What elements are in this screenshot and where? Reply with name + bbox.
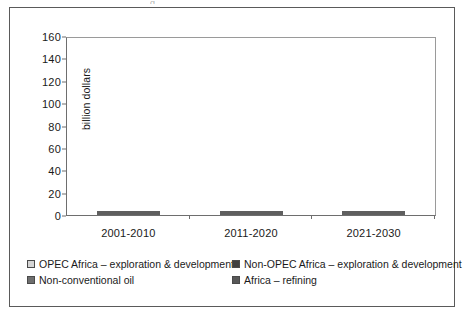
bar-group: 2001-2010 xyxy=(67,38,190,215)
bar-segment[interactable] xyxy=(220,214,283,215)
legend-swatch xyxy=(27,260,35,268)
bar-segment[interactable] xyxy=(97,214,160,215)
y-axis-tick-label: 140 xyxy=(15,53,61,65)
stacked-bar[interactable] xyxy=(220,211,283,215)
y-axis-tick-mark xyxy=(62,37,66,38)
y-axis-tick-mark xyxy=(62,148,66,149)
legend-swatch xyxy=(27,276,35,284)
legend-label: OPEC Africa – exploration & development xyxy=(39,258,234,270)
legend-item[interactable]: Africa – refining xyxy=(232,274,437,286)
stacked-bar[interactable] xyxy=(97,211,160,215)
bar-group: 2021-2030 xyxy=(312,38,435,215)
x-axis-tick-label: 2001-2010 xyxy=(67,227,190,239)
x-axis-tick-mark xyxy=(311,215,312,219)
plot-wrapper: billion dollars 160140120100806040200 20… xyxy=(66,37,436,216)
x-axis-tick-mark xyxy=(434,215,435,219)
x-axis-tick-label: 2011-2020 xyxy=(190,227,313,239)
legend-item[interactable]: Non-OPEC Africa – exploration & developm… xyxy=(232,258,437,270)
legend-label: Non-OPEC Africa – exploration & developm… xyxy=(244,258,462,270)
bar-group: 2011-2020 xyxy=(190,38,313,215)
y-axis-tick-label: 100 xyxy=(15,98,61,110)
bar-segment[interactable] xyxy=(342,214,405,215)
y-axis-tick-mark xyxy=(62,171,66,172)
clipped-title-remnant: g xyxy=(150,0,155,4)
legend-label: Non-conventional oil xyxy=(39,274,134,286)
y-axis-tick-label: 60 xyxy=(15,143,61,155)
x-axis-tick-label: 2021-2030 xyxy=(312,227,435,239)
legend-label: Africa – refining xyxy=(244,274,317,286)
y-axis-tick-label: 120 xyxy=(15,76,61,88)
y-axis-tick-mark xyxy=(62,104,66,105)
y-axis-tick-mark xyxy=(62,216,66,217)
chart-legend: OPEC Africa – exploration & developmentN… xyxy=(27,256,437,288)
legend-swatch xyxy=(232,276,240,284)
legend-item[interactable]: Non-conventional oil xyxy=(27,274,232,286)
y-axis-tick-label: 0 xyxy=(15,210,61,222)
y-axis-tick-mark xyxy=(62,126,66,127)
x-axis-tick-mark xyxy=(189,215,190,219)
y-axis-tick-label: 40 xyxy=(15,165,61,177)
legend-item[interactable]: OPEC Africa – exploration & development xyxy=(27,258,232,270)
chart-figure: g billion dollars 160140120100806040200 … xyxy=(0,0,464,316)
legend-swatch xyxy=(232,260,240,268)
y-axis-tick-mark xyxy=(62,81,66,82)
y-axis-tick-label: 160 xyxy=(15,31,61,43)
stacked-bar[interactable] xyxy=(342,211,405,215)
y-axis-tick-label: 20 xyxy=(15,188,61,200)
y-axis-tick-label: 80 xyxy=(15,121,61,133)
y-axis-tick-mark xyxy=(62,193,66,194)
y-axis-tick-mark xyxy=(62,59,66,60)
bar-series-layer: 2001-20102011-20202021-2030 xyxy=(67,38,435,215)
